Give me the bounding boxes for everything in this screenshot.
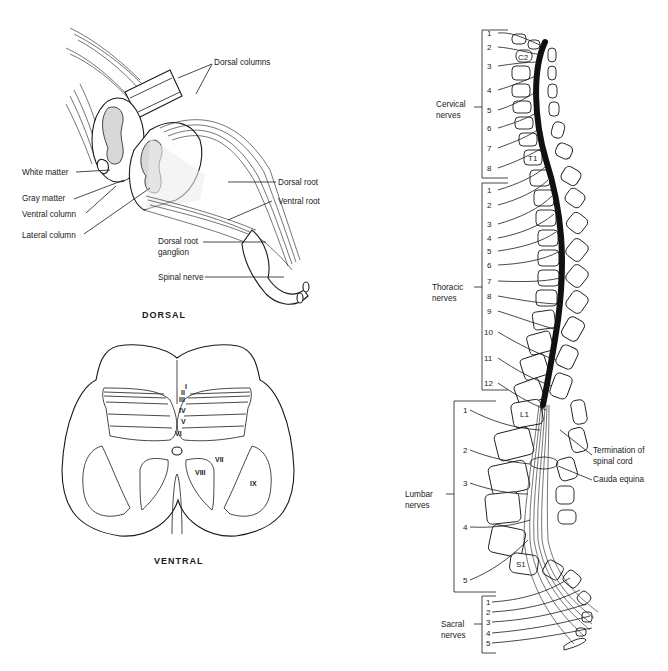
vertebra-label-s1: S1 [516, 560, 526, 569]
svg-text:2: 2 [486, 608, 491, 617]
caption-dorsal: DORSAL [142, 310, 186, 320]
lumbar-nerve-numbers: 1 2 3 4 5 [463, 406, 468, 585]
svg-text:4: 4 [487, 234, 492, 243]
svg-text:2: 2 [487, 43, 492, 52]
svg-text:4: 4 [487, 86, 492, 95]
svg-text:6: 6 [487, 124, 492, 133]
svg-text:2: 2 [463, 446, 468, 455]
svg-text:5: 5 [487, 106, 492, 115]
label-white-matter: White matter [22, 168, 69, 177]
label-dorsal-root-ganglion: Dorsal root [158, 237, 199, 246]
lamina-label: VII [215, 456, 224, 463]
vertebra-label-l1: L1 [520, 410, 529, 419]
svg-text:7: 7 [487, 277, 492, 286]
svg-text:3: 3 [487, 62, 492, 71]
lamina-label: IV [179, 407, 186, 414]
lamina-label: III [179, 396, 185, 403]
dorsal-spinal-cord-illustration [66, 28, 309, 304]
svg-text:1: 1 [463, 406, 468, 415]
svg-text:1: 1 [487, 29, 492, 38]
svg-text:11: 11 [484, 354, 493, 363]
cervical-nerve-numbers: 1 2 3 4 5 6 7 8 [487, 29, 492, 173]
label-lumbar-nerves: Lumbar [405, 490, 433, 499]
lamina-label: VI [175, 430, 182, 437]
lamina-label: V [181, 418, 186, 425]
svg-text:7: 7 [487, 144, 492, 153]
nerve-group-brackets [446, 30, 508, 653]
label-ventral-column: Ventral column [22, 210, 77, 219]
lamina-label: I [185, 383, 187, 390]
svg-text:3: 3 [486, 618, 491, 627]
svg-text:9: 9 [487, 307, 492, 316]
thoracic-nerve-numbers: 1 2 3 4 5 6 7 8 9 10 11 12 [484, 186, 493, 388]
label-cervical-nerves: Cervical [436, 100, 466, 109]
svg-text:12: 12 [484, 379, 493, 388]
label-lateral-column: Lateral column [22, 231, 76, 240]
svg-text:4: 4 [486, 629, 491, 638]
svg-text:2: 2 [487, 201, 492, 210]
svg-text:3: 3 [487, 220, 492, 229]
svg-text:1: 1 [486, 598, 491, 607]
svg-text:4: 4 [463, 523, 468, 532]
label-dorsal-root: Dorsal root [278, 178, 319, 187]
label-termination-of-spinal-cord-line2: spinal cord [593, 457, 633, 466]
lamina-label: IX [250, 480, 257, 487]
label-sacral-nerves: Sacral [441, 620, 464, 629]
label-gray-matter: Gray matter [22, 194, 65, 203]
svg-text:10: 10 [484, 328, 493, 337]
label-dorsal-root-ganglion-line2: ganglion [158, 248, 189, 257]
svg-text:8: 8 [487, 164, 492, 173]
svg-text:1: 1 [487, 186, 492, 195]
svg-text:6: 6 [487, 261, 492, 270]
lamina-label: II [181, 389, 185, 396]
caption-ventral: VENTRAL [154, 556, 204, 566]
label-termination-of-spinal-cord: Termination of [593, 446, 645, 455]
label-thoracic-nerves-line2: nerves [432, 294, 457, 303]
svg-text:5: 5 [463, 576, 468, 585]
vertebra-label-t1: T1 [528, 154, 538, 163]
sacral-nerve-numbers: 1 2 3 4 5 [486, 598, 491, 648]
label-thoracic-nerves: Thoracic [432, 283, 463, 292]
svg-text:5: 5 [486, 639, 491, 648]
label-cervical-nerves-line2: nerves [436, 111, 461, 120]
vertebra-label-c2: C2 [518, 53, 529, 62]
label-spinal-nerve: Spinal nerve [158, 273, 204, 282]
label-lumbar-nerves-line2: nerves [405, 501, 430, 510]
label-ventral-root: Ventral root [278, 197, 321, 206]
lamina-label: VIII [195, 469, 206, 476]
label-sacral-nerves-line2: nerves [441, 631, 466, 640]
svg-text:3: 3 [463, 479, 468, 488]
cross-section-laminae [62, 345, 294, 536]
svg-text:5: 5 [487, 247, 492, 256]
label-cauda-equina: Cauda equina [593, 475, 644, 484]
svg-text:8: 8 [487, 292, 492, 301]
label-dorsal-columns: Dorsal columns [214, 58, 270, 67]
